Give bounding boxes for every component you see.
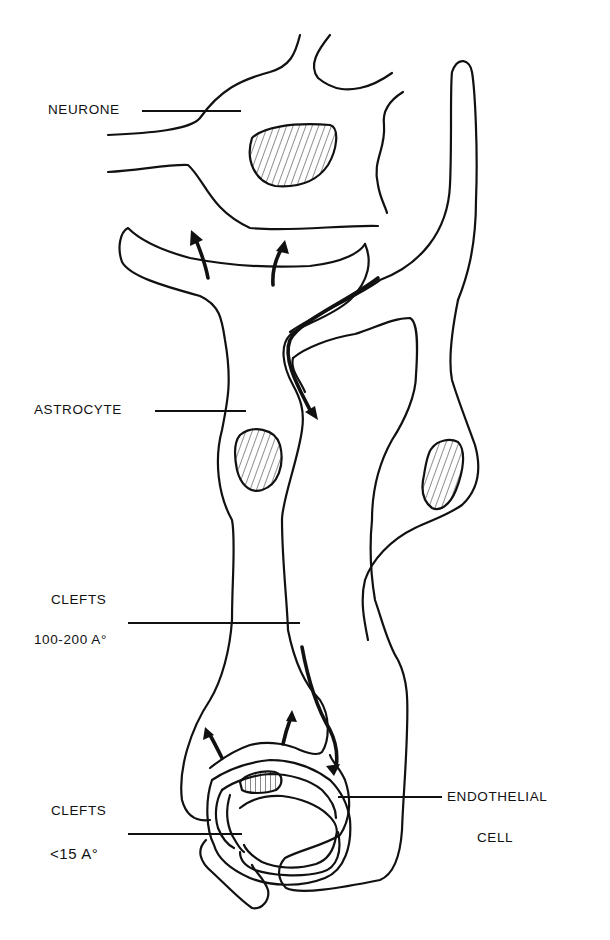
astrocyte-right-nucleus — [422, 440, 463, 509]
label-endothelial: ENDOTHELIAL — [447, 789, 547, 804]
neurone-cell — [108, 35, 403, 229]
arrowhead-down-top — [305, 406, 318, 420]
neurone-nucleus — [250, 124, 336, 186]
label-astrocyte: ASTROCYTE — [34, 402, 122, 417]
label-clefts-wide-title: CLEFTS — [51, 592, 106, 607]
label-endothelial-cell: CELL — [477, 830, 513, 845]
arrowhead-down-bottom — [326, 764, 340, 776]
arrow-cleft-flow-bottom — [302, 647, 337, 768]
label-clefts-wide-size: 100-200 A° — [34, 632, 107, 647]
right-process — [290, 61, 477, 332]
label-clefts-narrow-title: CLEFTS — [51, 803, 106, 818]
arrow-cleft-flow-top — [288, 278, 378, 410]
label-neurone: NEURONE — [48, 102, 120, 117]
arrow-from-capillary-1 — [210, 735, 222, 758]
endothelial-nucleus — [240, 771, 282, 793]
label-clefts-narrow-size: <15 A° — [50, 845, 98, 862]
astrocyte-left-nucleus — [235, 429, 282, 490]
arrow-from-capillary-2 — [283, 720, 290, 744]
leader-lines — [128, 111, 442, 834]
arrowhead-up-3 — [286, 710, 297, 722]
